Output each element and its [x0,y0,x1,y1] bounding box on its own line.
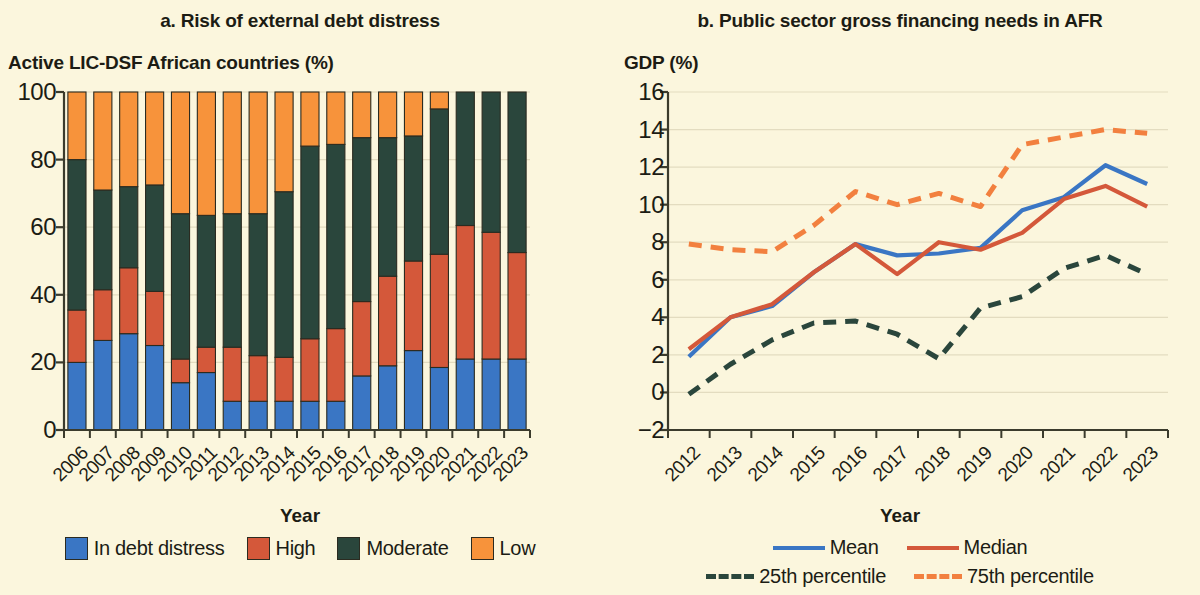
legend-item-25th-percentile[interactable]: 25th percentile [706,565,886,588]
bar-segment [275,192,293,358]
y-tick-label: 0 [0,416,56,444]
bar-segment [353,138,371,302]
bar-segment [456,92,474,226]
bar-segment [197,347,215,372]
panel-a-x-axis-title: Year [0,505,600,527]
panel-a-legend-row: In debt distressHighModerateLow [0,537,600,560]
bar-segment [68,160,86,310]
panel-a: a. Risk of external debt distress Active… [0,0,600,595]
bar-segment [301,401,319,430]
bar-segment [430,109,448,254]
bar-segment [379,92,397,138]
bar-segment [456,226,474,360]
legend-item-mean[interactable]: Mean [773,536,879,559]
line-series [689,255,1147,394]
bar-segment [249,356,267,402]
bar-segment [249,214,267,356]
legend-item-low[interactable]: Low [471,537,536,560]
bar-segment [301,339,319,402]
bar-segment [404,261,422,351]
panel-b-legend: MeanMedian 25th percentile75th percentil… [600,536,1200,594]
bar-segment [353,92,371,138]
bar-segment [508,359,526,430]
y-tick-label: 40 [0,281,56,309]
bar-segment [94,340,112,430]
bar-segment [171,214,189,359]
panel-b-title: b. Public sector gross financing needs i… [600,10,1200,32]
legend-item-moderate[interactable]: Moderate [337,537,448,560]
panel-b-x-axis-title: Year [600,505,1200,527]
bar-segment [68,92,86,160]
bar-segment [275,401,293,430]
legend-label: Median [964,536,1028,559]
legend-label: Moderate [366,537,448,560]
y-tick-label: 4 [614,303,664,331]
panel-b-plot [668,92,1168,430]
bar-segment [301,146,319,339]
line-series [689,130,1147,252]
panel-a-svg [64,92,530,430]
legend-swatch-icon [247,537,270,560]
bar-segment [120,334,138,430]
bar-segment [223,401,241,430]
bar-segment [171,92,189,214]
legend-label: 25th percentile [759,565,886,588]
panel-a-legend: In debt distressHighModerateLow [0,537,600,560]
bar-segment [327,401,345,430]
bar-segment [508,253,526,359]
panel-b-svg [668,92,1168,430]
legend-label: 75th percentile [967,565,1094,588]
figure-root: a. Risk of external debt distress Active… [0,0,1200,595]
bar-segment [327,329,345,402]
legend-label: High [276,537,316,560]
bar-segment [353,302,371,376]
bar-segment [508,92,526,253]
bar-segment [120,187,138,268]
y-tick-label: 0 [614,378,664,406]
legend-line-icon [773,546,825,550]
bar-segment [146,291,164,345]
bar-segment [197,373,215,430]
bar-segment [482,359,500,430]
y-tick-label: 2 [614,341,664,369]
legend-item-high[interactable]: High [247,537,316,560]
bar-segment [379,138,397,277]
y-tick-label: 20 [0,348,56,376]
bar-segment [404,136,422,261]
legend-swatch-icon [471,537,494,560]
y-tick-label: −2 [614,416,664,444]
bar-segment [68,362,86,430]
legend-item-75th-percentile[interactable]: 75th percentile [914,565,1094,588]
bar-segment [430,254,448,367]
y-tick-label: 60 [0,213,56,241]
bar-segment [430,92,448,109]
legend-item-in_debt_distress[interactable]: In debt distress [65,537,225,560]
y-tick-label: 8 [614,228,664,256]
bar-segment [482,92,500,232]
bar-segment [249,401,267,430]
legend-swatch-icon [65,537,88,560]
bar-segment [68,310,86,362]
bar-segment [94,290,112,341]
panel-a-plot [64,92,530,430]
bar-segment [223,214,241,348]
legend-label: Mean [830,536,879,559]
legend-swatch-icon [337,537,360,560]
line-series [689,186,1147,349]
legend-item-median[interactable]: Median [907,536,1028,559]
bar-segment [223,92,241,214]
bar-segment [146,92,164,185]
bar-segment [275,357,293,401]
panel-b-legend-row-1: MeanMedian [600,536,1200,559]
y-tick-label: 10 [614,191,664,219]
legend-label: Low [500,537,536,560]
bar-segment [404,351,422,430]
bar-segment [327,144,345,328]
bar-segment [94,92,112,190]
y-tick-label: 14 [614,116,664,144]
bar-segment [379,276,397,366]
bar-segment [223,347,241,401]
bar-segment [482,232,500,359]
panel-b-legend-row-2: 25th percentile75th percentile [600,565,1200,588]
bar-segment [275,92,293,192]
